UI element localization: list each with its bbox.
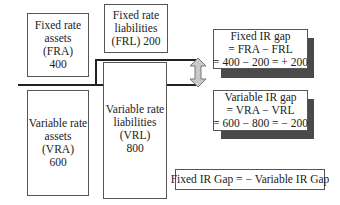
fixed-gap-line-3: = 400 − 200 = + 200 — [213, 56, 308, 69]
gap-identity-box: Fixed IR Gap = − Variable IR Gap — [175, 169, 325, 190]
fra-line-2: assets — [45, 32, 72, 45]
vra-line-4: 600 — [49, 156, 66, 169]
variable-gap-line-3: = 600 − 800 = − 200 — [213, 117, 308, 130]
fixed-rate-assets-box: Fixed rate assets (FRA) 400 — [27, 13, 89, 77]
vra-line-2: assets — [45, 130, 72, 143]
variable-gap-line-2: = VRA − VRL — [227, 104, 295, 117]
variable-rate-assets-box: Variable rate assets (VRA) 600 — [27, 90, 89, 196]
variable-gap-line-1: Variable IR gap — [224, 91, 296, 104]
upper-divider-line — [95, 59, 198, 61]
fixed-gap-line-2: = FRA − FRL — [228, 43, 292, 56]
frl-line-1: Fixed rate — [113, 9, 159, 22]
vrl-line-3: (VRL) — [120, 129, 151, 142]
fixed-rate-liabilities-box: Fixed rate liabilities (FRL) 200 — [104, 4, 168, 53]
variable-ir-gap-box: Variable IR gap = VRA − VRL = 600 − 800 … — [213, 90, 308, 131]
gap-identity-text: Fixed IR Gap = − Variable IR Gap — [171, 173, 330, 186]
vrl-line-4: 800 — [126, 142, 143, 155]
frl-line-2: liabilities — [115, 22, 158, 35]
fixed-gap-line-1: Fixed IR gap — [230, 30, 290, 43]
vra-line-1: Variable rate — [29, 117, 87, 130]
step-vertical-line — [95, 59, 97, 86]
double-vertical-arrow-icon — [189, 57, 207, 88]
fixed-ir-gap-box: Fixed IR gap = FRA − FRL = 400 − 200 = +… — [213, 29, 308, 69]
frl-line-3: (FRL) 200 — [112, 35, 161, 48]
vra-line-3: (VRA) — [42, 143, 74, 156]
fra-line-3: (FRA) — [43, 45, 73, 58]
fra-line-1: Fixed rate — [35, 19, 81, 32]
vrl-line-1: Variable rate — [106, 103, 164, 116]
fra-line-4: 400 — [49, 58, 66, 71]
variable-rate-liabilities-box: Variable rate liabilities (VRL) 800 — [103, 62, 167, 199]
vrl-line-2: liabilities — [114, 116, 157, 129]
